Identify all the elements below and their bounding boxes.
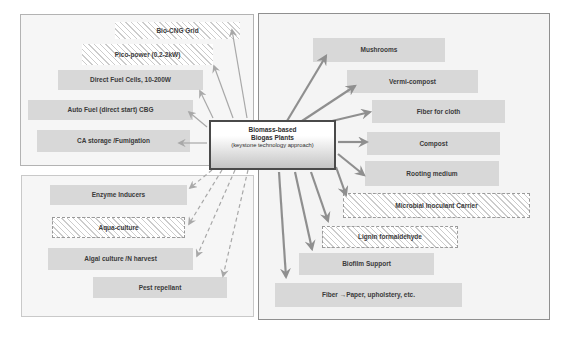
node-enzyme-inducers: Enzyme Inducers <box>50 185 187 205</box>
center-node-subtitle: (keystone technology approach) <box>231 142 314 150</box>
node-compost: Compost <box>367 132 500 155</box>
node-rooting-medium: Rooting medium <box>365 161 499 186</box>
node-ca-storage-fumigation: CA storage /Fumigation <box>37 130 190 152</box>
node-fiber-paper-upholstery: Fiber →Paper, upholstery, etc. <box>275 283 462 307</box>
node-vermi-compost: Vermi-compost <box>347 70 478 93</box>
node-aqua-culture: Aqua-culture <box>52 217 185 238</box>
node-biofilm-support: Biofilm Support <box>299 253 434 275</box>
node-auto-fuel-cbg: Auto Fuel (direct start) CBG <box>28 100 193 120</box>
node-direct-fuel-cells: Direct Fuel Cells, 10-200W <box>58 70 203 90</box>
biogas-keystone-diagram: Bio-CNG Grid Pico-power (0.2-2kW) Direct… <box>0 0 568 337</box>
center-node-title-line1: Biomass-based <box>248 126 296 134</box>
node-bio-cng-grid: Bio-CNG Grid <box>115 22 240 39</box>
node-pest-repellant: Pest repellant <box>93 277 227 298</box>
center-node-biogas-plants: Biomass-based Biogas Plants (keystone te… <box>209 120 336 170</box>
node-fiber-for-cloth: Fiber for cloth <box>372 100 505 123</box>
node-lignin-formaldehyde: Lignin formaldehyde <box>322 226 458 248</box>
node-microbial-inoculant-carrier: Microbial Inoculant Carrier <box>343 193 530 218</box>
node-pico-power: Pico-power (0.2-2kW) <box>82 44 213 65</box>
center-node-title-line2: Biogas Plants <box>251 134 294 142</box>
node-mushrooms: Mushrooms <box>313 38 445 62</box>
node-algal-culture: Algal culture /N harvest <box>48 248 193 270</box>
